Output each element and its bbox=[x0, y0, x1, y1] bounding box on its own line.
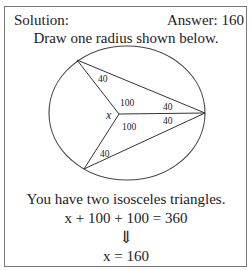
angle-label-right-upper: 40 bbox=[163, 102, 173, 112]
angle-label-center-upper: 100 bbox=[120, 98, 135, 108]
center-angle-x: x bbox=[105, 108, 112, 122]
angle-label-right-lower: 40 bbox=[163, 116, 173, 126]
implies-arrow: ⇓ bbox=[0, 229, 252, 246]
angle-label-bottom-left: 40 bbox=[100, 149, 110, 159]
explanation-text: You have two isosceles triangles. bbox=[0, 191, 252, 208]
angle-label-center-lower: 100 bbox=[122, 122, 137, 132]
radii-and-chords bbox=[77, 60, 205, 169]
equation-sum: x + 100 + 100 = 360 bbox=[0, 210, 252, 227]
equation-result: x = 160 bbox=[0, 248, 252, 265]
angle-label-top-left: 40 bbox=[98, 74, 108, 84]
